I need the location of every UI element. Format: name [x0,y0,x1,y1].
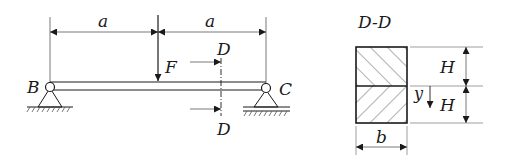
lower-layer-hatch [356,86,407,123]
section-cut: D D [190,39,231,139]
width-label: b [376,127,387,147]
section-top-label: D [216,39,231,59]
hinge-icon [262,84,271,93]
force-label: F [164,57,178,77]
upper-height-label: H [439,57,456,77]
cross-section: D-D H H y b [356,12,483,155]
span-left-label: a [98,11,108,31]
force-arrow: F [158,15,178,81]
support-c-label: C [279,79,292,99]
roller-support-c: C [243,79,292,116]
upper-layer-hatch [356,47,407,86]
beam-diagram: a a F B [0,0,505,163]
ground-hatch-icon [244,111,287,116]
lower-height-label: H [439,95,456,115]
cross-section-title: D-D [357,12,392,32]
ground-hatch-icon [27,107,70,112]
beam [50,82,266,90]
support-b-label: B [26,77,40,97]
section-bottom-label: D [216,119,231,139]
hinge-icon [46,83,55,92]
y-axis-label: y [413,84,424,103]
span-right-label: a [205,11,215,31]
